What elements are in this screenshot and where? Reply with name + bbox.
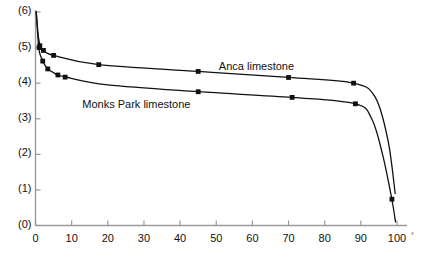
y-axis-tick-label: (0) xyxy=(0,218,32,230)
data-point-marker-anca xyxy=(196,69,201,74)
data-point-marker-monks-park xyxy=(353,101,358,106)
series-curve-monks-park-limestone xyxy=(36,12,395,222)
x-axis-tick-label: 80 xyxy=(310,232,340,244)
y-axis-tick-label: (2) xyxy=(0,146,32,158)
data-point-marker-monks-park xyxy=(40,59,45,64)
x-axis-tick-label: 60 xyxy=(237,232,267,244)
curves-group xyxy=(36,12,395,222)
data-point-marker-monks-park xyxy=(63,75,68,80)
data-point-marker-monks-park xyxy=(290,95,295,100)
data-point-marker-monks-park xyxy=(56,73,61,78)
y-axis-tick-label: (6) xyxy=(0,4,32,16)
data-point-marker-anca xyxy=(286,75,291,80)
data-point-markers xyxy=(37,43,395,201)
y-axis-tick-label: (3) xyxy=(0,111,32,123)
data-point-marker-anca xyxy=(351,81,356,86)
x-axis-tick-label: 50 xyxy=(201,232,231,244)
x-axis-tick-label: 40 xyxy=(165,232,195,244)
x-axis-tick-label: 0 xyxy=(21,232,51,244)
series-label-monks-park-limestone: Monks Park limestone xyxy=(82,98,190,110)
chart-plot-area xyxy=(0,0,422,259)
data-point-marker-monks-park xyxy=(390,197,395,202)
series-label-anca-limestone: Anca limestone xyxy=(219,60,294,72)
x-axis-tick-label: 100 xyxy=(382,232,412,244)
y-axis-tick-label: (1) xyxy=(0,182,32,194)
chart-figure: (0)(1)(2)(3)(4)(5)(6) 010203040506070809… xyxy=(0,0,422,259)
y-axis-tick-label: (5) xyxy=(0,40,32,52)
y-axis-tick-label: (4) xyxy=(0,75,32,87)
data-point-marker-monks-park xyxy=(45,67,50,72)
data-point-marker-anca xyxy=(41,48,46,53)
x-axis-tick-label: 20 xyxy=(93,232,123,244)
data-point-marker-anca xyxy=(96,62,101,67)
x-axis-tick-label: 90 xyxy=(346,232,376,244)
data-point-marker-monks-park xyxy=(196,89,201,94)
x-axis-tick-label: 70 xyxy=(274,232,304,244)
data-point-marker-anca xyxy=(51,53,56,58)
x-axis-tick-label: 10 xyxy=(57,232,87,244)
x-axis-tick-label: 30 xyxy=(129,232,159,244)
axes-group xyxy=(36,10,408,226)
x-axis-suffix-mark: ° xyxy=(411,232,414,239)
data-point-marker-monks-park xyxy=(37,45,42,50)
